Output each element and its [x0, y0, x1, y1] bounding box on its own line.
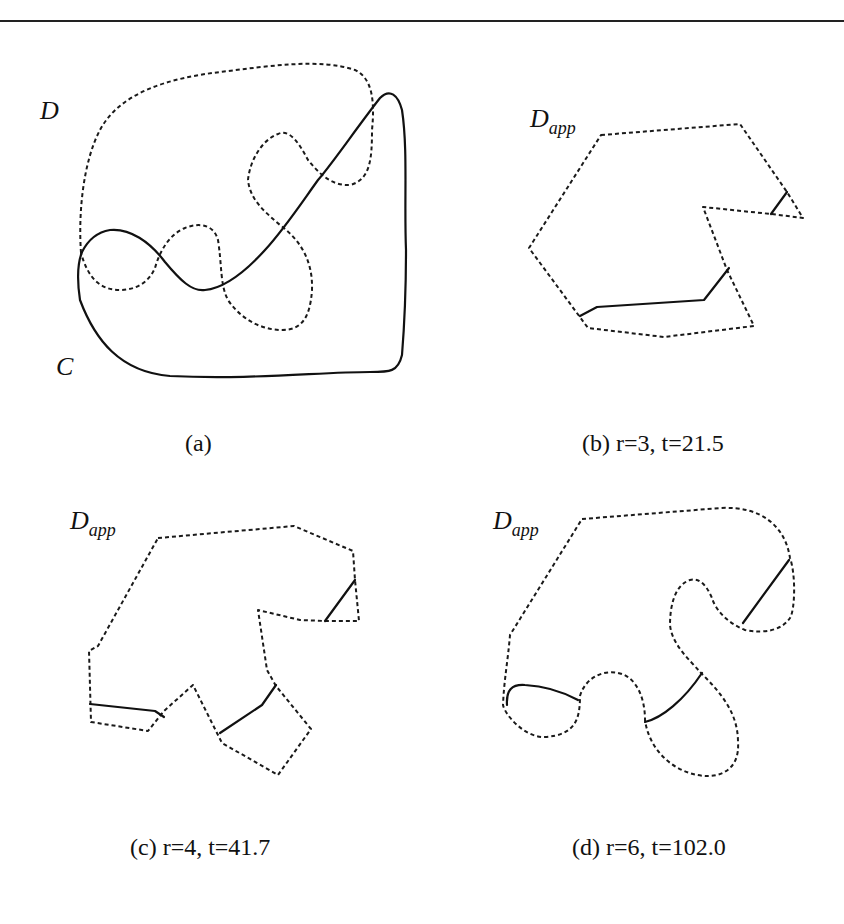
figure-canvas — [0, 0, 844, 924]
curve-c-segment — [743, 560, 789, 623]
label-sub: app — [512, 520, 539, 540]
panel-c — [89, 526, 359, 775]
region-dapp-boundary — [89, 526, 359, 775]
label-main: D — [493, 506, 512, 535]
label-d-region: D — [40, 96, 59, 126]
curve-c-segment — [325, 580, 355, 621]
caption-a: (a) — [185, 430, 212, 457]
label-main: D — [70, 506, 89, 535]
curve-c-segment — [507, 685, 578, 705]
label-c-curve: C — [56, 352, 73, 382]
caption-d: (d) r=6, t=102.0 — [572, 834, 726, 861]
label-dapp-c: Dapp — [70, 506, 116, 536]
label-dapp-b: Dapp — [530, 104, 576, 134]
curve-c-segment — [771, 192, 787, 214]
panel-a — [78, 64, 406, 377]
region-dapp-boundary — [529, 124, 803, 337]
label-sub: app — [89, 520, 116, 540]
curve-c-segment — [90, 704, 164, 717]
region-d-boundary — [80, 64, 373, 330]
curve-c-segment — [580, 268, 729, 316]
curve-c-segment — [645, 673, 702, 722]
curve-c — [78, 93, 406, 377]
label-dapp-d: Dapp — [493, 506, 539, 536]
caption-b: (b) r=3, t=21.5 — [582, 430, 724, 457]
panel-d — [503, 508, 794, 776]
caption-c: (c) r=4, t=41.7 — [130, 834, 270, 861]
label-main: D — [530, 104, 549, 133]
label-sub: app — [549, 118, 576, 138]
region-dapp-boundary — [503, 508, 794, 776]
panel-b — [529, 124, 803, 337]
curve-c-segment — [220, 685, 276, 733]
